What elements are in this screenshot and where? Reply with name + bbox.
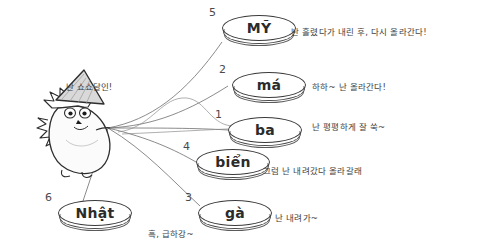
- note-token-5: 난 흘렸다가 내린 후, 다시 올라간다!: [291, 25, 427, 37]
- token-4-number: 4: [183, 140, 190, 153]
- token-5[interactable]: 5 MỸ: [222, 15, 298, 49]
- token-1-number: 1: [215, 108, 222, 121]
- character-speech: 난 쇼쇼달인!: [66, 80, 112, 92]
- token-1[interactable]: 1 ba: [228, 117, 304, 151]
- token-3[interactable]: 3 gà: [198, 200, 274, 234]
- token-6-word: Nhật: [58, 200, 132, 226]
- token-2-word: má: [232, 72, 306, 98]
- token-1-word: ba: [228, 117, 302, 143]
- note-token-3: 난 내려가~: [275, 211, 318, 223]
- diagram-canvas: 난 쇼쇼달인! 5 MỸ 2 má 1 ba 4 biển 3 gà 6: [0, 0, 494, 250]
- token-4-word: biển: [196, 149, 270, 175]
- token-6-number: 6: [45, 191, 52, 204]
- note-token-6: 흑, 급하강~: [148, 227, 194, 239]
- note-token-1: 난 평평하게 잘 쑥~: [312, 120, 385, 132]
- token-2[interactable]: 2 má: [232, 72, 308, 106]
- note-token-4: 그럼 난 내려갔다 올라갈래: [263, 164, 362, 176]
- token-6[interactable]: 6 Nhật: [58, 200, 134, 234]
- token-3-word: gà: [198, 200, 272, 226]
- token-2-number: 2: [219, 63, 226, 76]
- token-5-number: 5: [209, 6, 216, 19]
- note-token-2: 하하~ 난 올라간다!: [312, 80, 386, 92]
- token-5-word: MỸ: [222, 15, 296, 41]
- token-3-number: 3: [185, 191, 192, 204]
- token-4[interactable]: 4 biển: [196, 149, 272, 183]
